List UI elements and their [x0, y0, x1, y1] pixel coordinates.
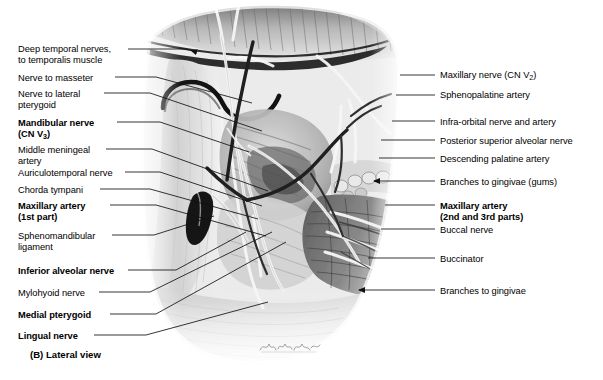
label-branches-to-gingivae-gums: Branches to gingivae (gums) [440, 177, 557, 188]
label-line-1: Maxillary artery [18, 201, 85, 211]
label-line-1: Deep temporal nerves, [18, 44, 111, 54]
label-line-1: Lingual nerve [18, 331, 78, 341]
label-line-2: pterygoid [18, 100, 56, 110]
label-line-1: Infra-orbital nerve and artery [440, 117, 556, 127]
label-line-2: (CN V3) [18, 129, 50, 139]
label-line-1: Sphenomandibular [18, 231, 95, 241]
figure-caption: (B) Lateral view [30, 349, 101, 360]
label-line-1: Nerve to masseter [18, 73, 93, 83]
label-line-1: Branches to gingivae [440, 286, 526, 296]
label-medial-pterygoid: Medial pterygoid [18, 310, 91, 321]
label-line-1: Branches to gingivae (gums) [440, 177, 557, 187]
label-line-1: Inferior alveolar nerve [18, 266, 114, 276]
label-maxillary-artery-2nd-3rd: Maxillary artery(2nd and 3rd parts) [440, 201, 523, 222]
infratemporal-fossa-illustration [135, 0, 405, 372]
label-line-2: (1st part) [18, 212, 57, 222]
label-nerve-to-masseter: Nerve to masseter [18, 73, 93, 84]
label-chorda-tympani: Chorda tympani [18, 185, 83, 196]
label-line-1: Medial pterygoid [18, 310, 91, 320]
label-mandibular-nerve: Mandibular nerve(CN V3) [18, 118, 94, 142]
label-descending-palatine-artery: Descending palatine artery [440, 154, 549, 165]
label-line-1: Descending palatine artery [440, 154, 549, 164]
label-nerve-to-lateral-pterygoid: Nerve to lateralpterygoid [18, 89, 80, 110]
label-buccinator: Buccinator [440, 254, 483, 265]
label-sphenomandibular-ligament: Sphenomandibularligament [18, 231, 95, 252]
label-line-1: Mylohyoid nerve [18, 288, 85, 298]
label-line-2: (2nd and 3rd parts) [440, 212, 523, 222]
label-auriculotemporal-nerve: Auriculotemporal nerve [18, 168, 113, 179]
label-line-1: Buccal nerve [440, 225, 493, 235]
label-mylohyoid-nerve: Mylohyoid nerve [18, 288, 85, 299]
label-posterior-superior-alveolar-nerve: Posterior superior alveolar nerve [440, 136, 573, 147]
label-line-1: Maxillary artery [440, 201, 507, 211]
label-line-1: Maxillary nerve (CN V2) [440, 70, 536, 80]
label-line-1: Nerve to lateral [18, 89, 80, 99]
label-branches-to-gingivae: Branches to gingivae [440, 286, 526, 297]
label-line-1: Chorda tympani [18, 185, 83, 195]
label-maxillary-artery-1st: Maxillary artery(1st part) [18, 201, 85, 222]
label-lingual-nerve: Lingual nerve [18, 331, 78, 342]
anatomy-figure-panel-b: Deep temporal nerves,to temporalis muscl… [0, 0, 603, 380]
label-sphenopalatine-artery: Sphenopalatine artery [440, 90, 530, 101]
label-line-1: Sphenopalatine artery [440, 90, 530, 100]
label-line-2: artery [18, 156, 41, 166]
label-line-1: Posterior superior alveolar nerve [440, 136, 573, 146]
label-line-2: to temporalis muscle [18, 55, 102, 65]
label-line-1: Buccinator [440, 254, 483, 264]
label-infra-orbital-nerve-and-artery: Infra-orbital nerve and artery [440, 117, 556, 128]
label-line-2: ligament [18, 242, 53, 252]
label-line-1: Auriculotemporal nerve [18, 168, 113, 178]
label-line-1: Middle meningeal [18, 145, 90, 155]
label-maxillary-nerve: Maxillary nerve (CN V2) [440, 70, 536, 83]
label-deep-temporal-nerves: Deep temporal nerves,to temporalis muscl… [18, 44, 111, 65]
label-middle-meningeal-artery: Middle meningealartery [18, 145, 90, 166]
artist-signature [258, 338, 322, 356]
label-line-1: Mandibular nerve [18, 118, 94, 128]
label-buccal-nerve: Buccal nerve [440, 225, 493, 236]
label-inferior-alveolar-nerve: Inferior alveolar nerve [18, 266, 114, 277]
